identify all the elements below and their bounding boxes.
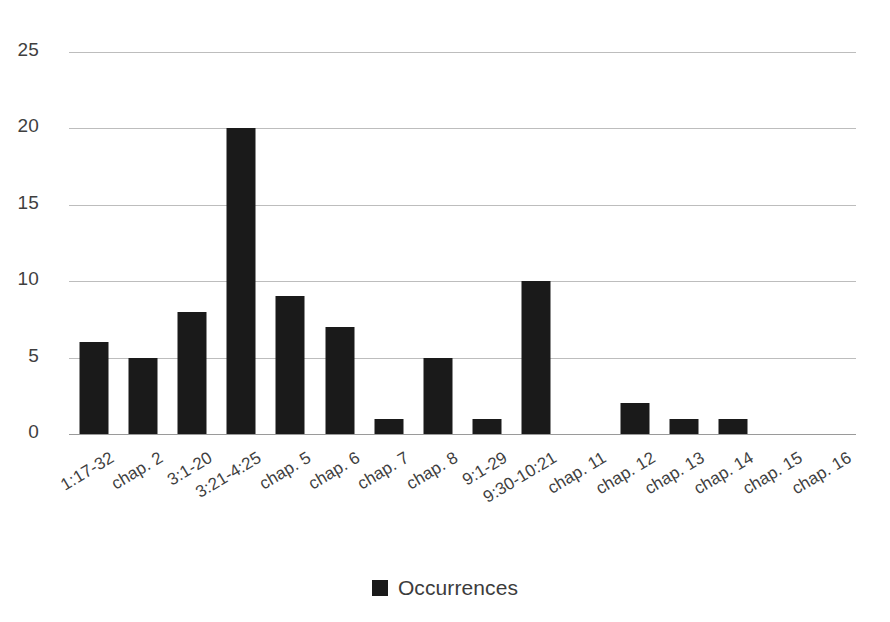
bar-series-occurrences (69, 52, 856, 434)
bar-slot (364, 52, 413, 434)
bar-slot (413, 52, 462, 434)
x-tick-slot: 1:17-32 (69, 434, 118, 554)
y-axis-tick-label: 5 (0, 345, 54, 367)
bar[interactable] (473, 419, 502, 434)
legend-item-label: Occurrences (398, 576, 518, 600)
bar[interactable] (620, 403, 649, 434)
bar[interactable] (177, 312, 206, 434)
x-axis-tick-label: 1:17-32 (58, 448, 118, 495)
y-axis-tick-label: 0 (0, 421, 54, 443)
bar[interactable] (79, 342, 108, 434)
bar-slot (315, 52, 364, 434)
x-tick-slot: chap. 6 (315, 434, 364, 554)
bar-slot (807, 52, 856, 434)
y-axis-tick-label: 25 (0, 39, 54, 61)
x-tick-slot: chap. 2 (118, 434, 167, 554)
bar-slot (561, 52, 610, 434)
x-tick-slot: chap. 16 (807, 434, 856, 554)
bar[interactable] (522, 281, 551, 434)
bar[interactable] (128, 358, 157, 434)
y-axis-tick-label: 15 (0, 192, 54, 214)
bar[interactable] (669, 419, 698, 434)
bar-slot (217, 52, 266, 434)
bar-slot (118, 52, 167, 434)
bar[interactable] (227, 128, 256, 434)
bar-slot (512, 52, 561, 434)
plot-area (69, 52, 856, 434)
bar[interactable] (719, 419, 748, 434)
bar-slot (167, 52, 216, 434)
y-axis-tick-label: 20 (0, 115, 54, 137)
legend-square-marker (372, 580, 388, 596)
bar-slot (659, 52, 708, 434)
bar[interactable] (374, 419, 403, 434)
x-tick-slot: 3:21-4:25 (217, 434, 266, 554)
x-tick-slot: chap. 8 (413, 434, 462, 554)
x-axis: 1:17-32chap. 23:1-203:21-4:25chap. 5chap… (69, 434, 856, 554)
x-tick-slot: chap. 5 (266, 434, 315, 554)
bar-slot (610, 52, 659, 434)
x-tick-slot: chap. 7 (364, 434, 413, 554)
y-axis-tick-label: 10 (0, 268, 54, 290)
bar-slot (463, 52, 512, 434)
bar[interactable] (276, 296, 305, 434)
bar-slot (69, 52, 118, 434)
chart-legend: Occurrences (0, 576, 890, 600)
bar-chart: 0510152025 1:17-32chap. 23:1-203:21-4:25… (0, 0, 890, 622)
bar-slot (758, 52, 807, 434)
bar-slot (708, 52, 757, 434)
bar[interactable] (423, 358, 452, 434)
y-axis: 0510152025 (0, 52, 54, 434)
bar[interactable] (325, 327, 354, 434)
bar-slot (266, 52, 315, 434)
